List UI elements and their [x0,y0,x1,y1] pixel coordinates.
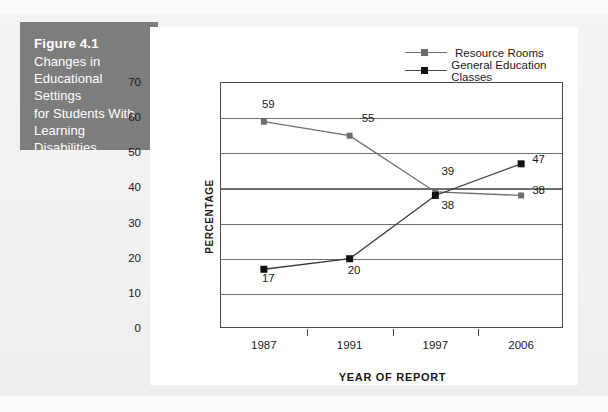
y-axis-tick-label: 20 [101,252,141,264]
x-axis-tick-label: 2006 [491,339,551,351]
y-axis-tick-label: 70 [101,76,141,88]
page-background: Figure 4.1 Changes in Educational Settin… [0,0,608,412]
plot-area: PERCENTAGE YEAR OF REPORT 01020304050607… [220,82,563,328]
series-line [264,164,521,269]
chart-legend: Resource Rooms General Education Classes [405,45,578,78]
data-point-label: 55 [362,112,375,124]
data-point-label: 47 [532,153,545,165]
series-line [264,122,521,196]
x-axis-tick-label: 1987 [234,339,294,351]
series-lines [221,83,564,329]
data-point-marker [261,119,267,125]
data-point-label: 39 [441,165,454,177]
data-point-marker [347,133,353,139]
y-axis-tick-label: 0 [101,322,141,334]
y-axis-tick-label: 40 [101,181,141,193]
x-axis-tick-label: 1997 [405,339,465,351]
data-point-label: 17 [262,272,275,284]
data-point-marker [518,192,524,198]
legend-label-general-education-classes: General Education Classes [451,59,578,83]
legend-key-general-education-classes [405,65,443,76]
x-axis-tick-label: 1991 [320,339,380,351]
y-axis-tick-label: 30 [101,217,141,229]
data-point-label: 38 [532,184,545,196]
data-point-label: 20 [348,264,361,276]
data-point-marker [518,160,525,167]
y-axis-tick-label: 50 [101,146,141,158]
chart-panel: Resource Rooms General Education Classes… [150,27,578,385]
y-axis-tick-label: 10 [101,287,141,299]
data-point-label: 59 [262,98,275,110]
data-point-marker [432,192,439,199]
legend-key-resource-rooms [405,47,447,58]
caption-line-1: Changes in [34,53,148,70]
figure-caption-text: Changes in Educational Settings for Stud… [34,53,148,156]
legend-label-resource-rooms: Resource Rooms [455,47,544,59]
data-point-label: 38 [441,199,454,211]
y-axis-title: PERCENTAGE [204,179,215,254]
y-axis-tick-label: 60 [101,111,141,123]
data-point-marker [346,255,353,262]
legend-square-marker-icon [421,67,428,74]
legend-square-marker-icon [421,49,428,56]
x-axis-tick-mark [307,329,308,336]
figure-number: Figure 4.1 [34,35,148,52]
legend-item-general-education-classes: General Education Classes [405,63,578,78]
x-axis-tick-mark [393,329,394,336]
x-axis-tick-mark [478,329,479,336]
x-axis-title: YEAR OF REPORT [221,371,564,383]
